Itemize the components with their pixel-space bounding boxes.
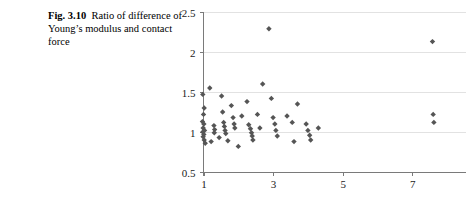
data-point [250, 137, 255, 142]
data-point [239, 113, 244, 118]
data-point [430, 112, 435, 117]
y-tick-label: 1.5 [182, 87, 196, 99]
data-point [220, 109, 225, 114]
data-point [430, 39, 435, 44]
data-point [229, 103, 234, 108]
data-point [216, 135, 221, 140]
data-point [201, 105, 206, 110]
y-tick-label: 2 [190, 47, 196, 59]
data-point [225, 138, 230, 143]
figure-container: Fig. 3.10 Ratio of difference of Young’s… [0, 0, 472, 206]
x-tick-label: 5 [340, 178, 346, 190]
data-point [211, 123, 216, 128]
data-point [260, 81, 265, 86]
data-point [295, 101, 300, 106]
data-point [316, 125, 321, 130]
y-tick-label: 2.5 [182, 7, 196, 19]
data-point [307, 133, 312, 138]
data-point [230, 115, 235, 120]
scatter-plot: 0.511.522.5 1357 [0, 0, 472, 206]
data-point [266, 26, 271, 31]
data-point [231, 121, 236, 126]
data-point [201, 112, 206, 117]
data-point [212, 130, 217, 135]
y-tick-label: 1 [190, 127, 196, 139]
data-point [291, 139, 296, 144]
data-point [244, 99, 249, 104]
data-point [303, 121, 308, 126]
x-tick-label: 7 [410, 178, 416, 190]
x-axis-ticks: 1357 [201, 172, 416, 190]
data-point [275, 133, 280, 138]
data-point [290, 120, 295, 125]
data-point [219, 93, 224, 98]
data-point [236, 144, 241, 149]
data-point [257, 125, 262, 130]
x-tick-label: 1 [201, 178, 207, 190]
data-point [255, 112, 260, 117]
data-points [200, 26, 437, 149]
x-tick-label: 3 [271, 178, 277, 190]
data-point [232, 125, 237, 130]
data-point [221, 120, 226, 125]
y-tick-label: 0.5 [182, 167, 196, 179]
data-point [207, 85, 212, 90]
data-point [222, 124, 227, 129]
data-point [270, 115, 275, 120]
data-point [431, 120, 436, 125]
data-point [284, 113, 289, 118]
data-point [208, 139, 213, 144]
y-axis-ticks: 0.511.522.5 [182, 7, 204, 179]
data-point [272, 121, 277, 126]
data-point [308, 137, 313, 142]
data-point [269, 96, 274, 101]
